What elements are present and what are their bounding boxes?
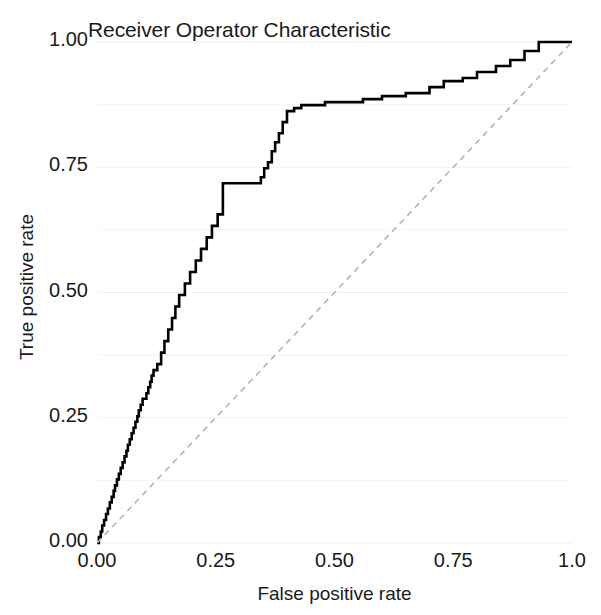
plot-area: [0, 0, 601, 615]
roc-chart: Receiver Operator Characteristic True po…: [0, 0, 601, 615]
